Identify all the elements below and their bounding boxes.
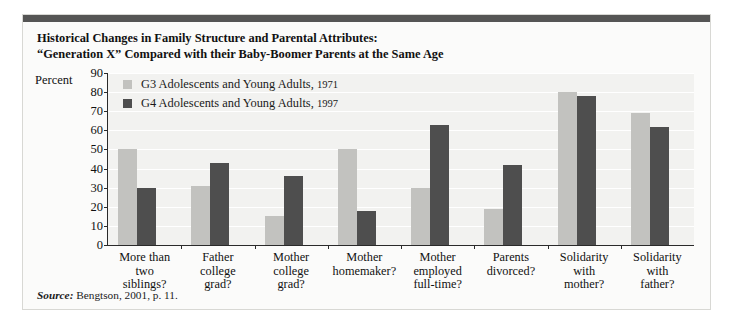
bar-series-1 — [191, 186, 210, 245]
bar-group-bars — [621, 73, 694, 245]
bar-group-bars — [548, 73, 621, 245]
source-label: Source: — [37, 289, 73, 301]
bar-series-1 — [484, 209, 503, 245]
bar-series-2 — [503, 165, 522, 245]
y-axis-tick-label: 80 — [91, 85, 104, 100]
bar-series-2 — [284, 176, 303, 245]
chart-legend: G3 Adolescents and Young Adults, 1971 G4… — [123, 75, 338, 113]
x-axis-tick-mark — [474, 245, 475, 249]
y-axis-tick-label: 40 — [91, 161, 104, 176]
bar-series-2 — [650, 127, 669, 245]
source-note: Source: Bengtson, 2001, p. 11. — [37, 289, 178, 301]
y-axis-tick-label: 70 — [91, 104, 104, 119]
x-axis-category-label-line: with — [614, 265, 700, 279]
bar-group: Solidaritywithmother? — [548, 73, 621, 245]
x-axis-category-label-line: full-time? — [395, 278, 481, 292]
x-axis-category-label-line: father? — [614, 278, 700, 292]
bar-series-1 — [631, 113, 650, 245]
bar-series-2 — [210, 163, 229, 245]
y-axis-tick-mark — [104, 245, 108, 246]
bar-group: Motherhomemaker? — [328, 73, 401, 245]
bar-series-2 — [577, 96, 596, 245]
plot-wrapper: Percent 0102030405060708090 More thantwo… — [23, 15, 710, 309]
x-axis-tick-mark — [181, 245, 182, 249]
y-axis-tick-label: 90 — [91, 66, 104, 81]
legend-entry-year: 1997 — [317, 98, 338, 109]
legend-entry-label: G3 Adolescents and Young Adults, 1971 — [141, 77, 338, 92]
x-axis-tick-mark — [255, 245, 256, 249]
bar-series-2 — [430, 125, 449, 245]
bar-series-1 — [118, 149, 137, 245]
y-axis-tick-label: 10 — [91, 218, 104, 233]
x-axis-tick-mark — [401, 245, 402, 249]
source-citation: Bengtson, 2001, p. 11. — [73, 289, 177, 301]
bar-group-bars — [401, 73, 474, 245]
bar-group: Solidaritywithfather? — [621, 73, 694, 245]
figure-panel: Historical Changes in Family Structure a… — [22, 14, 711, 310]
bar-series-1 — [558, 92, 577, 245]
series-2-swatch — [123, 99, 132, 108]
y-axis-label: Percent — [35, 73, 72, 88]
legend-entry-label: G4 Adolescents and Young Adults, 1997 — [141, 96, 338, 111]
legend-entry: G3 Adolescents and Young Adults, 1971 — [123, 75, 338, 94]
x-axis-tick-mark — [548, 245, 549, 249]
bar-group-bars — [474, 73, 547, 245]
x-axis-category-label-line: grad? — [248, 278, 334, 292]
x-axis-category-label: Solidaritywithfather? — [614, 251, 700, 292]
y-axis-tick-label: 50 — [91, 142, 104, 157]
bar-series-2 — [357, 211, 376, 245]
x-axis-tick-mark — [621, 245, 622, 249]
legend-entry-year: 1971 — [317, 79, 338, 90]
legend-entry: G4 Adolescents and Young Adults, 1997 — [123, 94, 338, 113]
y-axis-tick-label: 20 — [91, 199, 104, 214]
x-axis-tick-mark — [328, 245, 329, 249]
bar-group: Parentsdivorced? — [474, 73, 547, 245]
bar-group-bars — [328, 73, 401, 245]
x-axis-category-label-line: Solidarity — [614, 251, 700, 265]
bar-series-1 — [338, 149, 357, 245]
bar-group: Motheremployedfull-time? — [401, 73, 474, 245]
y-axis-tick-label: 30 — [91, 180, 104, 195]
bar-series-1 — [411, 188, 430, 245]
bar-series-1 — [265, 216, 284, 245]
y-axis-tick-label: 60 — [91, 123, 104, 138]
series-1-swatch — [123, 80, 132, 89]
bar-series-2 — [137, 188, 156, 245]
